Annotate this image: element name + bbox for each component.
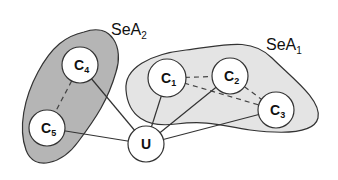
label-sea2: SeA2 bbox=[111, 21, 147, 41]
node-c5: C5 bbox=[29, 110, 65, 146]
node-c1: C1 bbox=[148, 59, 186, 97]
node-c2: C2 bbox=[212, 58, 248, 94]
svg-text:U: U bbox=[141, 136, 151, 152]
label-sea1: SeA1 bbox=[266, 36, 302, 56]
node-u: U bbox=[128, 126, 164, 162]
diagram-canvas: C4 C5 U C1 C2 C3 SeA2 SeA1 bbox=[0, 0, 338, 180]
node-c4: C4 bbox=[62, 47, 98, 83]
node-c3: C3 bbox=[258, 92, 294, 128]
